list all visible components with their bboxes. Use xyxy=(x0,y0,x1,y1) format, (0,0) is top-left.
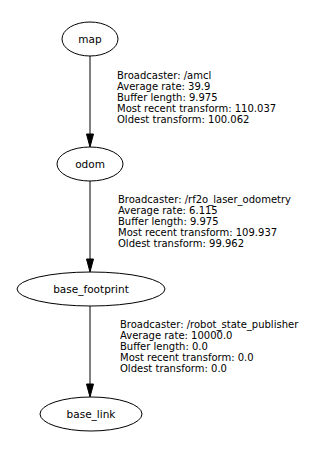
most-recent-transform-text: Most recent transform: 0.0 xyxy=(120,352,254,363)
buffer-length-text: Buffer length: 0.0 xyxy=(120,341,208,352)
node-base-link[interactable]: base_link xyxy=(40,397,142,431)
most-recent-transform-text: Most recent transform: 109.937 xyxy=(118,227,277,238)
tf-tree-diagram: map Broadcaster: /amcl Average rate: 39.… xyxy=(0,0,326,449)
edge-odom-base-footprint-info: Broadcaster: /rf2o_laser_odometry Averag… xyxy=(118,194,291,249)
node-base-footprint[interactable]: base_footprint xyxy=(17,272,165,306)
node-map-label: map xyxy=(78,33,102,45)
average-rate-text: Average rate: 10000.0 xyxy=(120,330,232,341)
average-rate-text: Average rate: 6.115 xyxy=(118,205,218,216)
edge-odom-base-footprint: Broadcaster: /rf2o_laser_odometry Averag… xyxy=(87,181,292,272)
arrowhead-icon xyxy=(87,384,94,397)
node-map[interactable]: map xyxy=(62,22,118,56)
oldest-transform-text: Oldest transform: 100.062 xyxy=(117,114,249,125)
oldest-transform-text: Oldest transform: 0.0 xyxy=(120,363,227,374)
arrowhead-icon xyxy=(87,134,94,147)
edge-map-odom-info: Broadcaster: /amcl Average rate: 39.9 Bu… xyxy=(117,70,276,125)
node-odom[interactable]: odom xyxy=(57,147,123,181)
edge-base-footprint-base-link: Broadcaster: /robot_state_publisher Aver… xyxy=(87,306,300,397)
edge-base-footprint-base-link-info: Broadcaster: /robot_state_publisher Aver… xyxy=(120,319,299,374)
broadcaster-text: Broadcaster: /amcl xyxy=(117,70,211,81)
oldest-transform-text: Oldest transform: 99.962 xyxy=(118,238,244,249)
arrowhead-icon xyxy=(87,259,94,272)
buffer-length-text: Buffer length: 9.975 xyxy=(118,216,219,227)
most-recent-transform-text: Most recent transform: 110.037 xyxy=(117,103,276,114)
node-odom-label: odom xyxy=(75,158,105,170)
average-rate-text: Average rate: 39.9 xyxy=(117,81,210,92)
node-base-link-label: base_link xyxy=(67,408,117,421)
node-base-footprint-label: base_footprint xyxy=(53,283,129,296)
buffer-length-text: Buffer length: 9.975 xyxy=(117,92,218,103)
edge-map-odom: Broadcaster: /amcl Average rate: 39.9 Bu… xyxy=(87,56,277,147)
